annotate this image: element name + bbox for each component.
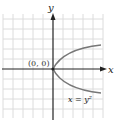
equation-label: x = y² — [68, 95, 92, 104]
origin-label: (0, 0) — [28, 59, 50, 68]
y-axis-arrow-icon — [51, 13, 56, 20]
origin-point — [51, 67, 54, 70]
parabola-graph: y x (0, 0) x = y² — [0, 0, 116, 126]
y-axis-label: y — [47, 2, 54, 13]
x-axis-label: x — [108, 64, 114, 75]
